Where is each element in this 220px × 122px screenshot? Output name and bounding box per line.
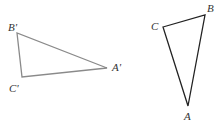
label-a-prime: A' [111, 61, 122, 73]
label-a: A [183, 110, 191, 122]
triangle-abc [163, 15, 205, 106]
label-b: B [207, 2, 214, 14]
triangle-diagram: B' C' A' C B A [0, 0, 220, 122]
label-b-prime: B' [8, 21, 18, 33]
label-c: C [151, 20, 159, 32]
label-c-prime: C' [9, 82, 19, 94]
triangle-a-prime-b-prime-c-prime [17, 33, 107, 77]
diagram-svg: B' C' A' C B A [0, 0, 220, 122]
